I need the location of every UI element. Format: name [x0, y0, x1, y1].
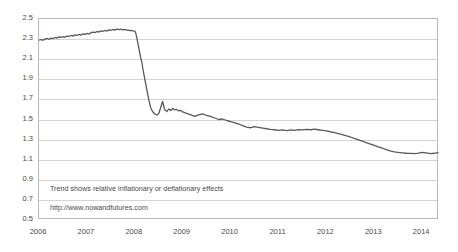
y-axis-label: 1.5: [0, 115, 33, 123]
y-axis-label: 1.1: [0, 155, 33, 163]
y-axis-label: 2.3: [0, 34, 33, 42]
x-axis-label: 2011: [258, 228, 298, 236]
annotation-trend-note: Trend shows relative inflationary or def…: [50, 184, 223, 193]
x-axis-label: 2008: [114, 228, 154, 236]
y-axis-label: 1.3: [0, 135, 33, 143]
x-axis-label: 2012: [305, 228, 345, 236]
y-axis-label: 1.7: [0, 94, 33, 102]
x-axis-label: 2009: [162, 228, 202, 236]
line-chart: 2.52.32.11.91.71.51.31.10.90.70.5 200620…: [0, 0, 458, 252]
x-axis-label: 2007: [66, 228, 106, 236]
x-axis-label: 2010: [210, 228, 250, 236]
y-axis-label: 2.5: [0, 14, 33, 22]
y-axis-label: 2.1: [0, 54, 33, 62]
annotation-source-url: http://www.nowandfutures.com: [50, 203, 148, 212]
y-axis-label: 0.5: [0, 215, 33, 223]
x-axis-label: 2013: [353, 228, 393, 236]
x-axis-label: 2006: [18, 228, 58, 236]
y-axis-label: 0.9: [0, 175, 33, 183]
x-axis-label: 2014: [401, 228, 441, 236]
y-axis-label: 0.7: [0, 195, 33, 203]
trend-line: [39, 29, 438, 154]
y-axis-label: 1.9: [0, 74, 33, 82]
